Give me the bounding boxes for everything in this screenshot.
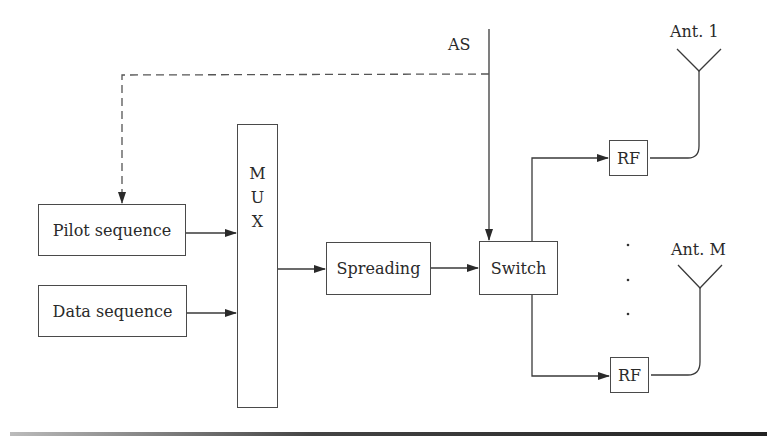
pilot-sequence-block: Pilot sequence: [38, 204, 186, 256]
spreading-block: Spreading: [326, 242, 431, 295]
mux-letter-u: U: [251, 186, 264, 210]
antm-label: Ant. M: [671, 240, 726, 259]
mux-block: M U X: [237, 124, 278, 408]
antenna-m-icon: [678, 265, 722, 288]
rf-1-block: RF: [609, 140, 648, 176]
ant1-label: Ant. 1: [670, 22, 719, 41]
antenna-1-icon: [677, 49, 721, 71]
mux-letter-x: X: [252, 210, 263, 234]
switch-block: Switch: [479, 241, 558, 295]
mux-letter-m: M: [249, 162, 265, 186]
data-sequence-block: Data sequence: [38, 285, 187, 337]
as-label: AS: [448, 35, 471, 54]
rf-m-block: RF: [610, 357, 649, 393]
page-edge: [10, 432, 767, 436]
